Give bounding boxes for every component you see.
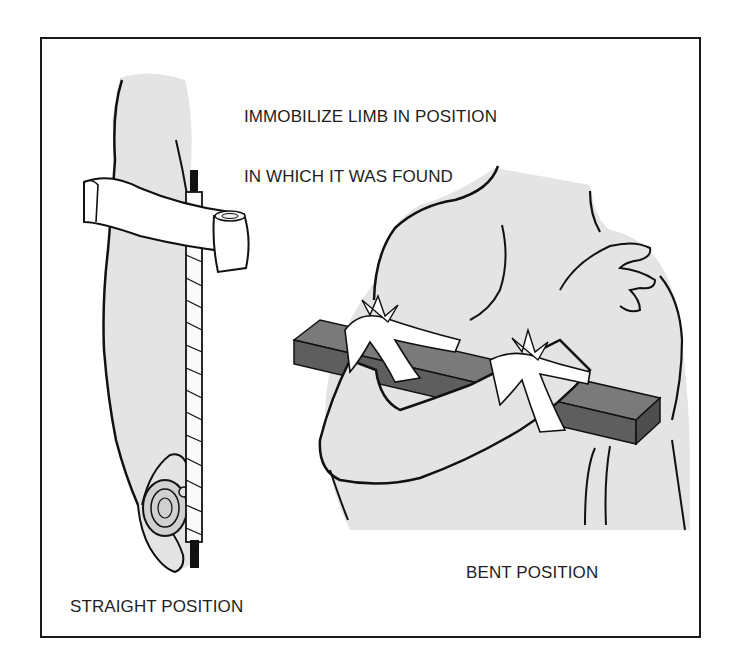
bent-arm-illustration xyxy=(294,166,690,530)
figure-title: IMMOBILIZE LIMB IN POSITION IN WHICH IT … xyxy=(244,67,497,207)
roller-bandage xyxy=(214,211,249,272)
straight-arm-illustration xyxy=(84,73,249,572)
bent-position-label: BENT POSITION xyxy=(466,563,598,583)
straight-position-label: STRAIGHT POSITION xyxy=(70,597,243,617)
figure-title-line-1: IMMOBILIZE LIMB IN POSITION xyxy=(244,107,497,127)
figure-title-line-2: IN WHICH IT WAS FOUND xyxy=(244,167,497,187)
